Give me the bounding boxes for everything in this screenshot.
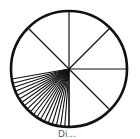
- radial-spoke-diagram: [0, 0, 140, 139]
- major-spoke: [69, 69, 110, 110]
- major-spoke: [28, 28, 69, 69]
- caption: Di...: [58, 130, 76, 139]
- major-spoke: [69, 28, 110, 69]
